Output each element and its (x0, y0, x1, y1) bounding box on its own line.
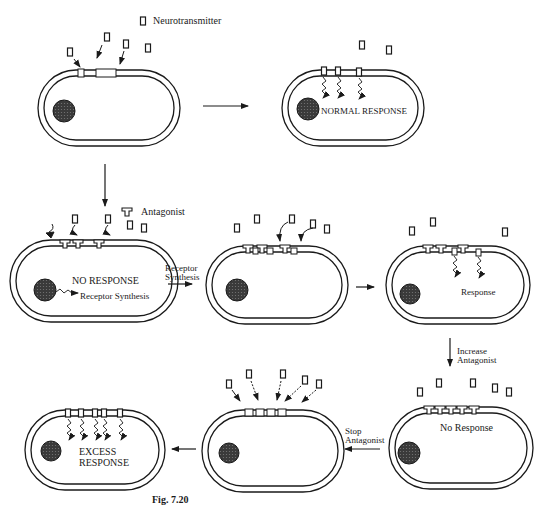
stop-antagonist-label-2: Antagonist (345, 435, 385, 445)
nucleus (34, 279, 56, 301)
nucleus (53, 100, 75, 122)
cell-8-label-1: EXCESS (79, 446, 116, 457)
cell-3-sub-label: Receptor Synthesis (80, 291, 149, 301)
neurotransmitter-legend-label: Neurotransmitter (153, 15, 221, 26)
figure-caption: Fig. 7.20 (152, 494, 188, 505)
increase-antagonist-label-2: Antagonist (457, 355, 497, 365)
nucleus (41, 441, 61, 461)
cell-3-label: NO RESPONSE (72, 275, 139, 286)
nucleus (226, 279, 248, 301)
cell-6-label: No Response (440, 422, 493, 433)
receptor-synthesis-label-2: Synthesis (165, 272, 200, 282)
neurotransmitter-legend-icon (141, 17, 146, 25)
antagonist-legend-icon (122, 208, 132, 216)
antagonist-legend-label: Antagonist (141, 206, 185, 217)
nucleus (400, 284, 420, 304)
cell-8-label-2: RESPONSE (79, 457, 129, 468)
cell-2-label: NORMAL RESPONSE (321, 106, 407, 116)
nucleus (297, 98, 319, 120)
nucleus (398, 442, 420, 464)
nucleus (219, 443, 239, 463)
cell-5-label: Response (461, 287, 496, 297)
